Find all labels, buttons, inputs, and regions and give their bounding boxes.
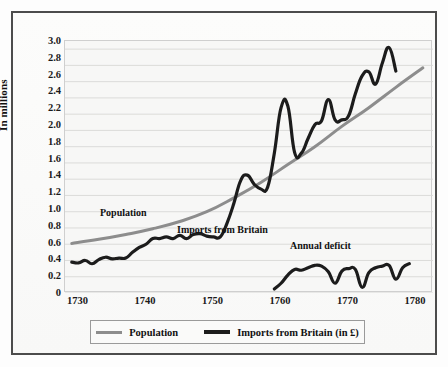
y-tick: 0 bbox=[21, 287, 61, 298]
x-tick: 1750 bbox=[202, 295, 223, 306]
plot-area bbox=[64, 40, 432, 292]
chart-root: In millions 3.0 2.8 2.6 2.4 2.2 2.0 1.8 … bbox=[0, 0, 448, 367]
legend-label: Population bbox=[129, 327, 178, 338]
chart-legend: Population Imports from Britain (in £) bbox=[90, 320, 365, 344]
y-tick: 1.2 bbox=[21, 186, 61, 197]
y-tick: 0.4 bbox=[21, 253, 61, 264]
x-tick: 1740 bbox=[135, 295, 156, 306]
y-tick: 2.0 bbox=[21, 119, 61, 130]
legend-item-population: Population bbox=[96, 327, 178, 338]
annotation-annual-deficit: Annual deficit bbox=[290, 240, 351, 251]
y-axis-tick-labels: 3.0 2.8 2.6 2.4 2.2 2.0 1.8 1.6 1.4 1.2 … bbox=[17, 40, 61, 292]
y-tick: 2.4 bbox=[21, 85, 61, 96]
plot-svg bbox=[65, 41, 433, 293]
y-tick: 3.0 bbox=[21, 35, 61, 46]
chart-frame: In millions 3.0 2.8 2.6 2.4 2.2 2.0 1.8 … bbox=[11, 11, 437, 355]
annotation-imports-from-britain: Imports from Britain bbox=[177, 224, 268, 235]
y-tick: 2.6 bbox=[21, 68, 61, 79]
y-tick: 1.6 bbox=[21, 152, 61, 163]
legend-line-swatch-icon bbox=[204, 330, 230, 334]
x-tick: 1760 bbox=[270, 295, 291, 306]
y-tick: 0.2 bbox=[21, 270, 61, 281]
x-tick: 1780 bbox=[405, 295, 426, 306]
y-axis-title: In millions bbox=[0, 0, 9, 131]
legend-item-imports-from-britain: Imports from Britain (in £) bbox=[204, 327, 359, 338]
annotation-population: Population bbox=[100, 207, 147, 218]
gridlines bbox=[65, 49, 433, 293]
y-tick: 2.8 bbox=[21, 51, 61, 62]
x-tick: 1730 bbox=[67, 295, 88, 306]
y-tick: 1.4 bbox=[21, 169, 61, 180]
y-tick: 0.6 bbox=[21, 236, 61, 247]
y-tick: 1.0 bbox=[21, 203, 61, 214]
x-tick: 1770 bbox=[337, 295, 358, 306]
y-tick: 1.8 bbox=[21, 135, 61, 146]
x-axis-tick-labels: 1730 1740 1750 1760 1770 1780 bbox=[64, 295, 432, 311]
data-series-layer bbox=[72, 47, 423, 289]
y-tick: 0.8 bbox=[21, 219, 61, 230]
legend-line-swatch-icon bbox=[96, 331, 122, 334]
y-tick: 2.2 bbox=[21, 102, 61, 113]
legend-label: Imports from Britain (in £) bbox=[237, 327, 359, 338]
